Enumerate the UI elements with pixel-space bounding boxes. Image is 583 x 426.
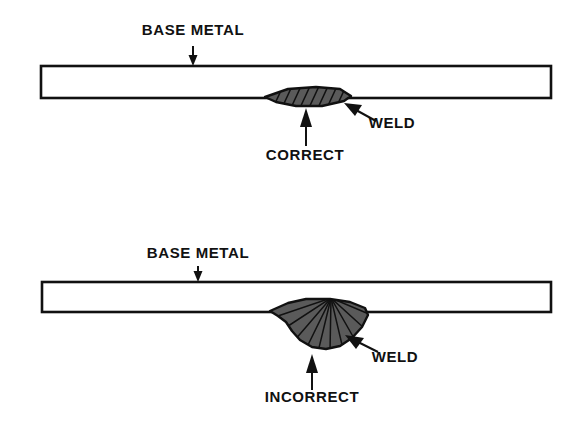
arrow-head-up-icon [300,108,312,127]
weld-leader-incorrect [345,335,378,352]
verdict-label-correct: CORRECT [266,146,344,163]
correct-panel: BASE METAL CORRECT WELD [41,21,551,163]
arrow-head-up-icon [306,354,318,373]
incorrect-leader [306,354,318,390]
base-metal-leader-correct [189,46,198,66]
arrow-head-down-icon [194,271,203,282]
incorrect-panel: BASE METAL INCORRECT WELD [42,244,551,405]
weld-label-correct: WELD [369,114,416,131]
weld-profile-figure: BASE METAL CORRECT WELD [0,0,583,426]
arrow-head-upleft-icon [344,103,362,116]
base-metal-label-correct: BASE METAL [142,21,244,38]
base-metal-leader-incorrect [194,266,203,282]
correct-leader [300,108,312,146]
verdict-label-incorrect: INCORRECT [265,388,360,405]
weld-label-incorrect: WELD [372,348,419,365]
weld-diagram-canvas: BASE METAL CORRECT WELD [0,0,583,426]
arrow-head-down-icon [189,55,198,66]
base-metal-label-incorrect: BASE METAL [147,244,249,261]
weld-leader-correct [344,103,376,121]
